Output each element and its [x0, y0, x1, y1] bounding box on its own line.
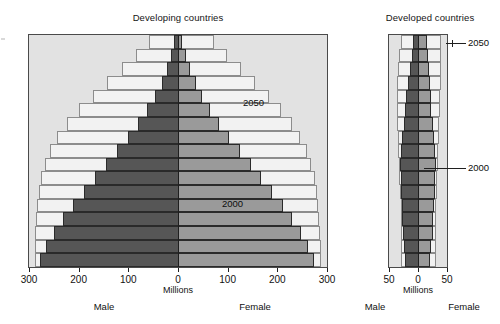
developed-series-2050-annotation: 2050	[468, 37, 489, 48]
x-axis-tick-label: 100	[120, 274, 137, 285]
bar-female-2000	[178, 49, 186, 63]
x-axis-tick	[79, 268, 80, 272]
developed-male-label: Male	[365, 301, 386, 312]
bar-male-2000	[46, 240, 179, 254]
bar-female-2000	[178, 144, 240, 158]
bar-male-2000	[405, 253, 419, 267]
bar-male-2000	[40, 253, 179, 267]
bar-male-2000	[402, 212, 419, 226]
bar-female-2000	[418, 253, 430, 267]
x-axis-tick	[228, 268, 229, 272]
bar-female-2000	[418, 185, 435, 199]
bar-female-2000	[418, 49, 428, 63]
bar-female-2000	[418, 226, 433, 240]
bar-female-2000	[178, 253, 314, 267]
bar-female-2000	[418, 117, 433, 131]
bar-female-2000	[178, 226, 301, 240]
x-axis-tick	[128, 268, 129, 272]
developing-series-2050-annotation: 2050	[243, 97, 264, 108]
developed-chart-title: Developed countries	[366, 12, 494, 23]
bar-male-2000	[95, 171, 179, 185]
bar-male-2000	[117, 144, 179, 158]
bar-female-2000	[178, 171, 261, 185]
bar-female-2000	[418, 35, 427, 49]
x-axis-tick	[29, 268, 30, 272]
bar-female-2000	[418, 212, 433, 226]
bar-male-2000	[401, 171, 419, 185]
bar-female-2000	[418, 240, 431, 254]
x-axis-tick-label: 200	[70, 274, 87, 285]
bar-female-2000	[178, 76, 196, 90]
bar-male-2000	[400, 158, 419, 172]
bar-male-2000	[405, 103, 419, 117]
bar-male-2000	[128, 131, 179, 145]
x-axis-tick	[277, 268, 278, 272]
x-axis-tick	[178, 268, 179, 272]
bar-female-2000	[418, 90, 431, 104]
bar-male-2000	[73, 199, 179, 213]
x-axis-tick-label: 50	[441, 274, 452, 285]
developed-series-2000-annotation: 2000	[468, 162, 489, 173]
bar-female-2000	[178, 131, 229, 145]
developing-axis-units-label: Millions	[163, 285, 193, 295]
bar-female-2000	[178, 185, 272, 199]
bar-male-2000	[54, 226, 179, 240]
developing-countries-panel: Developing countries 3002001000100200300…	[0, 0, 360, 324]
bar-female-2000	[418, 199, 434, 213]
bar-female-2000	[178, 90, 202, 104]
bar-male-2000	[402, 199, 419, 213]
bar-male-2000	[63, 212, 179, 226]
bar-male-2000	[162, 76, 179, 90]
x-axis-tick	[447, 268, 448, 272]
bar-male-2000	[155, 90, 179, 104]
developed-plot-area	[388, 34, 448, 268]
developed-axis-units-label: Millions	[403, 285, 433, 295]
developed-2050-leader-line	[446, 43, 466, 44]
developing-plot-area	[28, 34, 328, 268]
scan-artifact	[1, 38, 5, 40]
bar-male-2000	[403, 226, 419, 240]
x-axis-tick-label: 0	[415, 274, 421, 285]
developed-countries-panel: Developed countries 50050 Millions Male …	[360, 0, 500, 324]
bar-male-2000	[402, 131, 419, 145]
bar-female-2000	[178, 158, 251, 172]
bar-male-2000	[106, 158, 179, 172]
bar-female-2000	[418, 144, 435, 158]
x-axis-tick	[327, 268, 328, 272]
bar-male-2000	[404, 240, 419, 254]
center-axis-line	[418, 35, 419, 267]
developing-series-2000-annotation: 2000	[222, 198, 243, 209]
bar-female-2000	[178, 240, 308, 254]
bar-female-2000	[418, 76, 430, 90]
developed-female-label: Female	[448, 301, 480, 312]
bar-male-2000	[147, 103, 179, 117]
developed-2000-leader-line	[424, 168, 466, 169]
bar-female-2000	[418, 158, 436, 172]
x-axis-tick-label: 50	[383, 274, 394, 285]
developing-male-label: Male	[94, 301, 115, 312]
bar-female-2000	[418, 103, 431, 117]
bar-female-2000	[418, 131, 434, 145]
bar-male-2000	[404, 117, 420, 131]
x-axis-tick-label: 0	[175, 274, 181, 285]
bar-female-2000	[178, 212, 292, 226]
bar-male-2000	[401, 144, 419, 158]
x-axis-tick-label: 100	[219, 274, 236, 285]
bar-male-2000	[138, 117, 179, 131]
bar-female-2000	[178, 103, 210, 117]
x-axis-tick-label: 300	[319, 274, 336, 285]
bar-male-2000	[401, 185, 419, 199]
developing-female-label: Female	[239, 301, 271, 312]
center-axis-line	[178, 35, 179, 267]
bar-female-2000	[178, 62, 190, 76]
x-axis-tick	[418, 268, 419, 272]
bar-female-2000	[418, 171, 435, 185]
x-axis-tick	[389, 268, 390, 272]
x-axis-tick-label: 200	[269, 274, 286, 285]
x-axis-tick-label: 300	[21, 274, 38, 285]
developing-chart-title: Developing countries	[28, 12, 328, 23]
bar-female-2000	[178, 117, 219, 131]
bar-male-2000	[84, 185, 179, 199]
bar-female-2000	[418, 62, 429, 76]
